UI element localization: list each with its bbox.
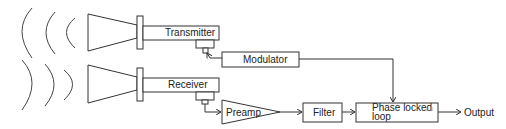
modulator-to-transmitter-arrow (207, 53, 222, 58)
receive-antenna (88, 65, 143, 103)
received-waves-icon (22, 60, 73, 110)
pll-annotation: c d (426, 106, 433, 112)
filter-block: Filter (303, 103, 342, 122)
filter-label: Filter (313, 107, 336, 118)
transmitter-block: Transmitter (143, 26, 219, 53)
receiver-label: Receiver (168, 79, 208, 90)
output-label: Output (464, 107, 494, 118)
transmit-antenna (88, 14, 143, 51)
pll-label-line2: loop (372, 111, 391, 122)
preamp-block: Preamp (222, 100, 280, 124)
pll-block: Phase locked loop c d (356, 102, 438, 122)
modulator-block: Modulator (222, 52, 299, 67)
modulator-to-pll-arrow (299, 59, 393, 102)
transmitter-label: Transmitter (165, 27, 216, 38)
receiver-to-preamp-arrow (205, 104, 221, 112)
transmitter-receiver-diagram: Transmitter Modulator Receiver Preamp Fi… (0, 0, 506, 129)
transmitted-waves-icon (22, 8, 75, 58)
modulator-label: Modulator (243, 54, 288, 65)
receiver-block: Receiver (143, 78, 219, 104)
preamp-label: Preamp (226, 107, 261, 118)
